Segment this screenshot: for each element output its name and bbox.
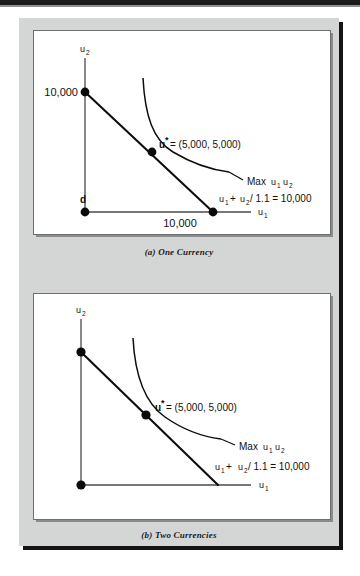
- objective-u2-a: u: [283, 177, 288, 187]
- chart-one-currency: u 2 u 1 10,000 10,000 d u * = (5,000, 5,…: [33, 30, 329, 233]
- constraint-u1-a: u: [219, 194, 224, 204]
- constraint-plus-a: +: [230, 193, 236, 204]
- objective-u2-sub-a: 2: [289, 182, 293, 189]
- tick-y-10000-a: 10,000: [44, 86, 78, 98]
- chart-two-currencies: u 2 u 1 u * = (5,000, 5,000) Max u 1 u 2…: [33, 293, 329, 518]
- constraint-u2-a: u: [240, 194, 245, 204]
- constraint-u1-sub-b: 1: [221, 467, 225, 474]
- leader-max-a: [229, 172, 243, 180]
- u-star-asterisk-b: *: [161, 398, 165, 408]
- u-star-value-a: = (5,000, 5,000): [170, 139, 241, 150]
- point-disagreement-a: [81, 208, 90, 217]
- constraint-u2-b: u: [238, 462, 243, 472]
- x-axis-label-sub-a: 1: [264, 212, 268, 219]
- frontier-line-b: [81, 352, 218, 485]
- y-axis-label-b: u: [76, 305, 81, 315]
- y-axis-label-sub-a: 2: [86, 49, 90, 56]
- figure-plate-shadow-bottom: [23, 546, 343, 550]
- point-y-intercept-a: [81, 88, 90, 97]
- objective-u1-sub-a: 1: [277, 182, 281, 189]
- iso-utility-curve-b: [133, 338, 221, 439]
- y-axis-label-sub-b: 2: [82, 310, 86, 317]
- constraint-u1-b: u: [215, 462, 220, 472]
- u-star-value-b: = (5,000, 5,000): [166, 402, 237, 413]
- objective-u1-a: u: [271, 177, 276, 187]
- constraint-tail-b: / 1.1 = 10,000: [248, 461, 310, 472]
- figure-plate-shadow-right: [339, 22, 343, 550]
- objective-max-b: Max: [239, 441, 258, 452]
- point-u-star-b: [141, 410, 150, 419]
- point-x-intercept-a: [209, 208, 218, 217]
- x-axis-label-b: u: [259, 480, 264, 490]
- objective-u2-sub-b: 2: [281, 447, 285, 454]
- leader-max-b: [221, 439, 235, 445]
- objective-u1-b: u: [263, 442, 268, 452]
- constraint-plus-b: +: [226, 461, 232, 472]
- x-axis-label-sub-b: 1: [265, 485, 269, 492]
- point-y-intercept-b: [76, 347, 85, 356]
- caption-two-currencies: (b) Two Currencies: [19, 530, 339, 540]
- page-top-rule-shadow: [0, 5, 360, 7]
- point-u-star-a: [148, 148, 157, 157]
- y-axis-label-a: u: [80, 44, 85, 54]
- caption-one-currency: (a) One Currency: [19, 247, 339, 257]
- point-disagreement-b: [76, 480, 85, 489]
- constraint-u1-sub-a: 1: [225, 199, 229, 206]
- constraint-tail-a: / 1.1 = 10,000: [250, 193, 312, 204]
- objective-max-a: Max: [247, 176, 266, 187]
- x-axis-label-a: u: [258, 207, 263, 217]
- objective-u1-sub-b: 1: [269, 447, 273, 454]
- objective-u2-b: u: [275, 442, 280, 452]
- tick-x-10000-a: 10,000: [163, 217, 197, 229]
- u-star-asterisk-a: *: [165, 135, 169, 145]
- disagreement-label-a: d: [80, 194, 86, 205]
